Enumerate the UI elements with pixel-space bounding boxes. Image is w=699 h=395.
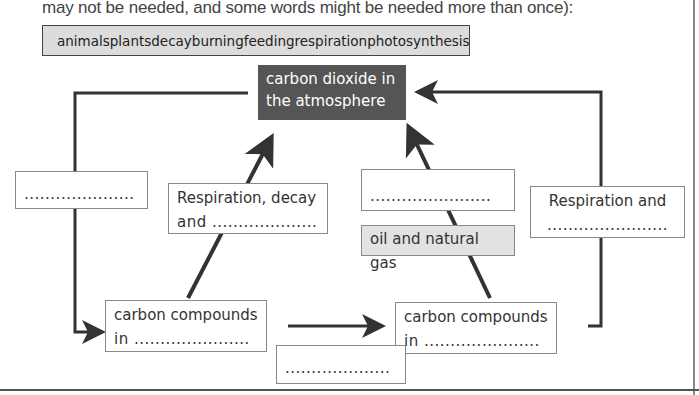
middle-right-blank-box[interactable]: ....................... [361, 169, 515, 211]
respiration-decay-answer[interactable]: and .................... [177, 210, 319, 234]
respiration-decay-box: Respiration, decay and .................… [168, 183, 328, 234]
compounds-left-line1: carbon compounds [114, 303, 258, 327]
middle-right-blank-answer[interactable]: ....................... [370, 184, 506, 208]
left-blank-answer[interactable]: ..................... [24, 182, 139, 206]
oil-gas-label: oil and natural gas [370, 227, 506, 275]
respiration-decay-line1: Respiration, decay [177, 186, 319, 210]
carbon-compounds-right-box: carbon compounds in ....................… [395, 302, 557, 354]
bottom-blank-answer[interactable]: .................... [285, 356, 397, 380]
atmosphere-line2: the atmosphere [266, 90, 398, 112]
compounds-left-answer[interactable]: in ...................... [114, 327, 258, 351]
respiration-and-line1: Respiration and [539, 189, 676, 213]
compounds-right-line1: carbon compounds [404, 305, 548, 329]
left-blank-box[interactable]: ..................... [15, 171, 148, 209]
page-edge-bottom [0, 389, 699, 391]
respiration-and-answer[interactable]: ....................... [539, 213, 676, 237]
page-edge-right [693, 0, 695, 395]
oil-gas-box: oil and natural gas [361, 225, 515, 256]
atmosphere-line1: carbon dioxide in [266, 68, 398, 90]
compounds-right-answer[interactable]: in ...................... [404, 329, 548, 353]
respiration-and-box: Respiration and ....................... [530, 186, 685, 238]
bottom-blank-box[interactable]: .................... [276, 345, 406, 384]
atmosphere-box: carbon dioxide in the atmosphere [258, 65, 406, 120]
carbon-compounds-left-box: carbon compounds in ....................… [105, 300, 267, 352]
